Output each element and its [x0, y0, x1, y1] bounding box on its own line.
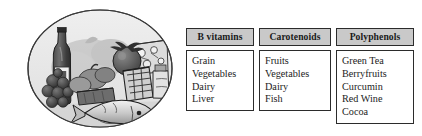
- list-item: Grain: [192, 55, 253, 68]
- list-item: Vegetables: [265, 68, 330, 81]
- cheese-wedge: [123, 67, 153, 101]
- list-item: Berryfruits: [342, 68, 413, 81]
- list-item: Dairy: [265, 81, 330, 94]
- column-body-polyphenols: Green Tea Berryfruits Curcumin Red Wine …: [336, 50, 414, 124]
- list-item: Vegetables: [192, 68, 253, 81]
- list-item: Red Wine: [342, 93, 413, 106]
- column-header-polyphenols: Polyphenols: [336, 28, 414, 46]
- nutrient-columns: B vitamins Grain Vegetables Dairy Liver …: [186, 28, 418, 124]
- list-item: Green Tea: [342, 55, 413, 68]
- list-item: Fish: [265, 93, 330, 106]
- list-item: Dairy: [192, 81, 253, 94]
- list-item: Cocoa: [342, 106, 413, 119]
- column-body-b-vitamins: Grain Vegetables Dairy Liver: [186, 50, 254, 111]
- nutrient-column-carotenoids: Carotenoids Fruits Vegetables Dairy Fish: [259, 28, 331, 111]
- nutrient-column-polyphenols: Polyphenols Green Tea Berryfruits Curcum…: [336, 28, 414, 124]
- food-still-life-oval: [27, 9, 173, 128]
- figure-root: B vitamins Grain Vegetables Dairy Liver …: [0, 0, 422, 136]
- column-body-carotenoids: Fruits Vegetables Dairy Fish: [259, 50, 331, 111]
- column-header-carotenoids: Carotenoids: [259, 28, 331, 46]
- list-item: Liver: [192, 93, 253, 106]
- column-header-b-vitamins: B vitamins: [186, 28, 254, 46]
- nutrient-column-b-vitamins: B vitamins Grain Vegetables Dairy Liver: [186, 28, 254, 111]
- illustration-svg: [27, 9, 173, 128]
- list-item: Curcumin: [342, 81, 413, 94]
- list-item: Fruits: [265, 55, 330, 68]
